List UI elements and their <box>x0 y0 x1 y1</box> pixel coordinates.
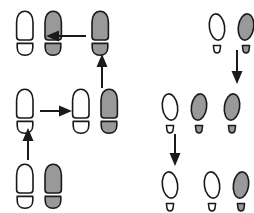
diagram-canvas: Footprint sequence diagram <box>0 0 254 213</box>
oval-pair-bottom-right[interactable] <box>201 170 252 213</box>
left-foot-icon <box>159 92 181 136</box>
right-foot-icon <box>188 92 210 136</box>
left-foot-icon <box>206 12 228 56</box>
arrow-down-left <box>167 134 183 166</box>
right-foot-icon <box>230 170 252 213</box>
oval-pair-middle-left[interactable] <box>159 92 210 136</box>
oval-single-middle-right[interactable] <box>221 92 243 136</box>
right-foot-icon <box>221 92 243 136</box>
arrow-down-right <box>229 50 245 84</box>
left-foot-icon <box>201 170 223 213</box>
oval-print-sequence <box>0 0 254 213</box>
left-foot-icon <box>159 170 181 213</box>
oval-single-bottom-left[interactable] <box>159 170 181 213</box>
